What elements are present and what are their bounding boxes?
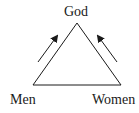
label-men: Men [10, 93, 36, 107]
label-god: God [64, 5, 88, 19]
triangle-shape [33, 23, 121, 85]
arrow-men-to-god [38, 36, 57, 62]
label-women: Women [92, 93, 135, 107]
arrow-women-to-god [98, 36, 117, 62]
